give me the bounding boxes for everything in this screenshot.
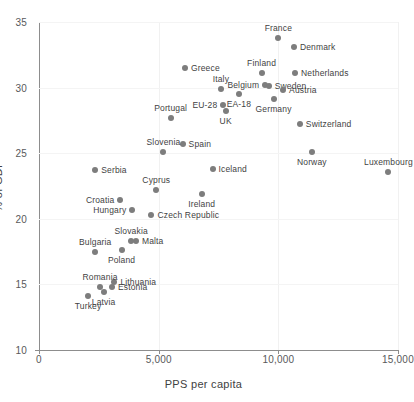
data-point[interactable] <box>117 197 123 203</box>
data-point[interactable] <box>259 70 265 76</box>
data-point-label: Slovakia <box>114 227 147 236</box>
y-axis-tick-label: 20 <box>15 213 33 224</box>
y-axis-tick-label: 30 <box>15 82 33 93</box>
data-point-label: Portugal <box>154 103 187 112</box>
y-axis-title: % of GDP <box>0 160 4 211</box>
data-point[interactable] <box>129 207 135 213</box>
data-point[interactable] <box>109 284 115 290</box>
data-point-label: Czech Republic <box>157 211 219 220</box>
data-point[interactable] <box>385 169 391 175</box>
data-point-label: Germany <box>256 105 292 114</box>
data-point-label: Belgium <box>227 81 259 90</box>
data-point-label: Switzerland <box>306 120 352 129</box>
x-axis-tick-label: 10,000 <box>262 354 294 365</box>
data-point[interactable] <box>85 293 91 299</box>
data-point[interactable] <box>92 249 98 255</box>
data-point-label: Poland <box>108 256 135 265</box>
data-point[interactable] <box>199 191 205 197</box>
data-point[interactable] <box>168 115 174 121</box>
data-point-label: Greece <box>191 64 220 73</box>
data-point-label: Norway <box>297 158 327 167</box>
data-point-label: Finland <box>247 59 276 68</box>
data-point-label: Hungary <box>93 205 126 214</box>
data-point[interactable] <box>220 102 226 108</box>
data-point-label: Luxembourg <box>364 157 413 166</box>
y-axis-tick-label: 35 <box>15 17 33 28</box>
data-point-label: Denmark <box>300 43 336 52</box>
y-axis-tick-label: 15 <box>15 279 33 290</box>
plot-area: FranceDenmarkGreeceFinlandNetherlandsBel… <box>39 22 398 350</box>
x-axis-tick-label: 5,000 <box>146 354 172 365</box>
data-point-label: EU-28 <box>192 100 217 109</box>
x-gridline <box>278 22 279 350</box>
data-point-label: Serbia <box>101 166 126 175</box>
data-point-label: Estonia <box>118 283 147 292</box>
y-gridline <box>39 284 398 285</box>
data-point-label: Slovenia <box>147 137 181 146</box>
data-point[interactable] <box>309 149 315 155</box>
data-point[interactable] <box>119 247 125 253</box>
x-axis-tick-label: 0 <box>36 354 42 365</box>
data-point[interactable] <box>271 96 277 102</box>
data-point[interactable] <box>218 86 224 92</box>
data-point-label: Netherlands <box>301 69 348 78</box>
y-axis-tick <box>35 350 39 351</box>
data-point[interactable] <box>148 212 154 218</box>
data-point-label: Italy <box>213 74 229 83</box>
data-point-label: Turkey <box>75 302 102 311</box>
data-point-label: Malta <box>142 237 164 246</box>
data-point-label: EA-18 <box>227 100 251 109</box>
data-point-label: Iceland <box>219 165 247 174</box>
data-point[interactable] <box>280 87 286 93</box>
data-point[interactable] <box>297 121 303 127</box>
data-point-label: Romania <box>82 273 117 282</box>
y-gridline <box>39 153 398 154</box>
data-point[interactable] <box>101 289 107 295</box>
data-point-label: Bulgaria <box>79 237 111 246</box>
data-point[interactable] <box>236 91 242 97</box>
data-point-label: Ireland <box>188 200 215 209</box>
y-axis-tick-label: 10 <box>15 345 33 356</box>
data-point[interactable] <box>92 167 98 173</box>
x-axis-line <box>39 350 398 351</box>
data-point[interactable] <box>133 238 139 244</box>
data-point[interactable] <box>292 70 298 76</box>
x-gridline <box>159 22 160 350</box>
data-point[interactable] <box>210 166 216 172</box>
x-axis-tick-label: 15,000 <box>382 354 414 365</box>
x-axis-title: PPS per capita <box>0 378 407 390</box>
data-point-label: Austria <box>289 86 317 95</box>
data-point-label: Cyprus <box>142 175 170 184</box>
data-point[interactable] <box>182 65 188 71</box>
data-point[interactable] <box>223 108 229 114</box>
data-point-label: France <box>265 23 292 32</box>
x-gridline <box>398 22 399 350</box>
data-point[interactable] <box>275 35 281 41</box>
y-axis-tick-label: 25 <box>15 148 33 159</box>
y-gridline <box>39 22 398 23</box>
data-point[interactable] <box>291 44 297 50</box>
data-point-label: UK <box>220 117 232 126</box>
data-point-label: Spain <box>189 140 212 149</box>
